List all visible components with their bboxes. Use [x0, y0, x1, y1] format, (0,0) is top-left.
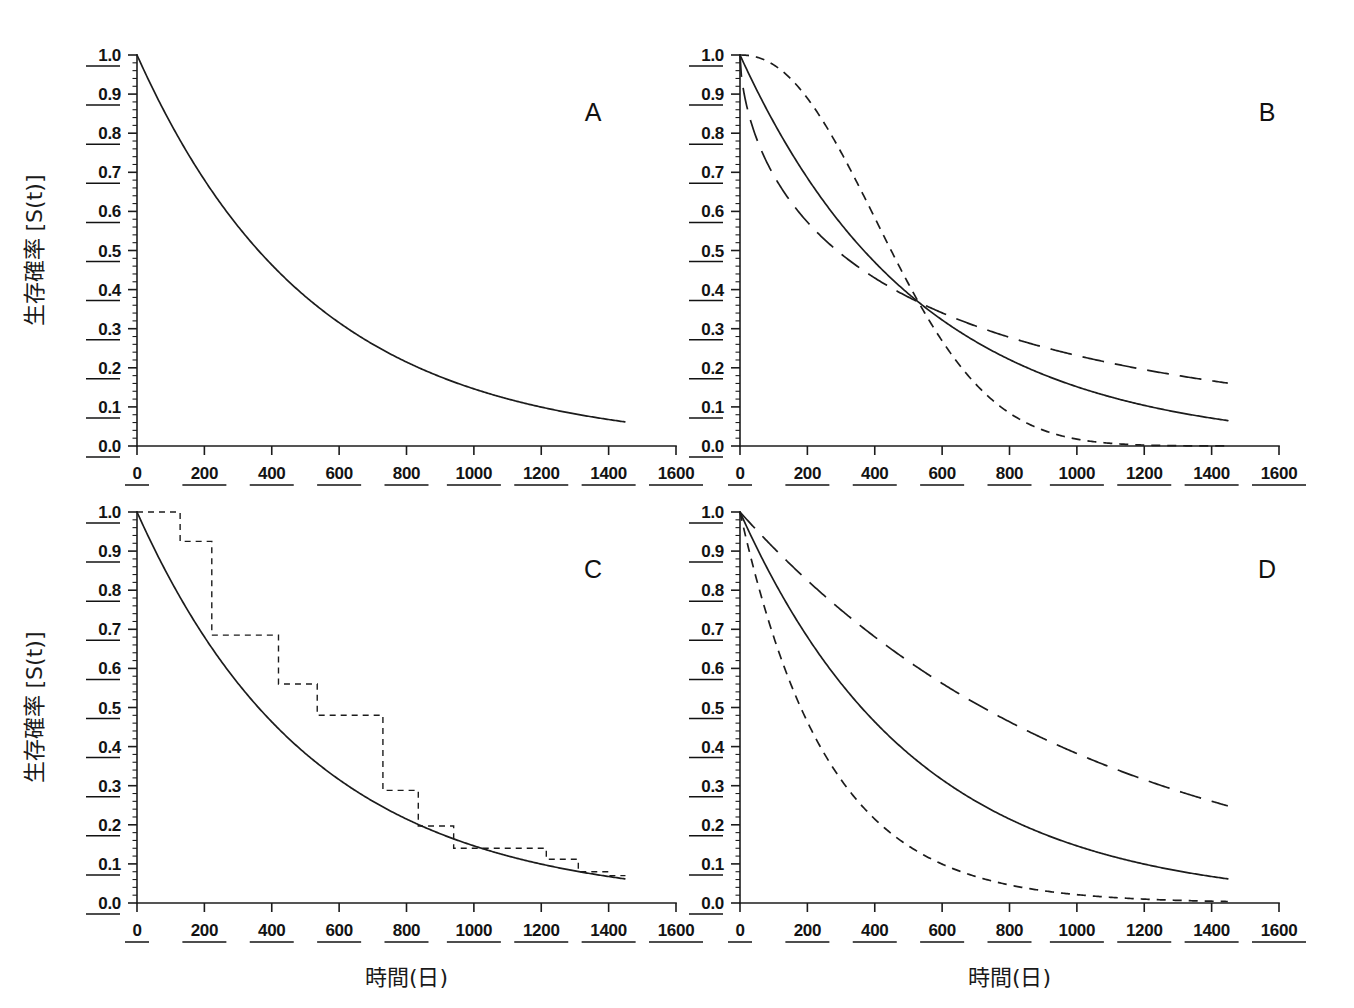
- curve-C-kaplan-meier-step: [137, 512, 625, 876]
- x-tick-label-C-6: 1200: [523, 921, 560, 940]
- y-tick-label-C-6: 0.6: [98, 659, 121, 678]
- x-tick-label-B-7: 1400: [1193, 464, 1230, 483]
- curve-A-exponential: [137, 55, 625, 422]
- x-tick-label-C-5: 1000: [456, 921, 493, 940]
- y-tick-label-D-8: 0.8: [701, 581, 724, 600]
- x-tick-label-B-6: 1200: [1126, 464, 1163, 483]
- x-tick-label-D-1: 200: [794, 921, 821, 940]
- y-tick-label-B-9: 0.9: [701, 85, 724, 104]
- y-tick-label-D-9: 0.9: [701, 542, 724, 561]
- y-tick-label-A-7: 0.7: [98, 163, 121, 182]
- y-axis-title-A: 生存確率 [S(t)]: [22, 175, 47, 327]
- y-tick-label-A-6: 0.6: [98, 202, 121, 221]
- x-tick-label-D-7: 1400: [1193, 921, 1230, 940]
- x-tick-label-B-3: 600: [928, 464, 955, 483]
- y-tick-label-A-8: 0.8: [98, 124, 121, 143]
- x-tick-label-B-8: 1600: [1261, 464, 1298, 483]
- x-tick-label-A-7: 1400: [590, 464, 627, 483]
- x-tick-label-A-1: 200: [191, 464, 218, 483]
- y-tick-label-A-4: 0.4: [98, 281, 122, 300]
- y-tick-label-A-2: 0.2: [98, 359, 121, 378]
- x-tick-label-D-8: 1600: [1261, 921, 1298, 940]
- x-tick-label-A-2: 400: [258, 464, 285, 483]
- y-tick-label-B-8: 0.8: [701, 124, 724, 143]
- y-tick-label-B-5: 0.5: [701, 242, 724, 261]
- y-tick-label-A-9: 0.9: [98, 85, 121, 104]
- y-tick-label-D-10: 1.0: [701, 503, 724, 522]
- panel-B: 0.00.10.20.30.40.50.60.70.80.91.00200400…: [689, 46, 1306, 485]
- x-tick-label-C-1: 200: [191, 921, 218, 940]
- y-tick-label-C-9: 0.9: [98, 542, 121, 561]
- x-tick-label-A-5: 1000: [456, 464, 493, 483]
- curve-D-exponential-hr-1.0: [740, 512, 1228, 879]
- y-tick-label-A-3: 0.3: [98, 320, 121, 339]
- y-tick-label-B-10: 1.0: [701, 46, 724, 65]
- x-tick-label-C-3: 600: [325, 921, 352, 940]
- y-tick-label-D-7: 0.7: [701, 620, 724, 639]
- y-tick-label-C-5: 0.5: [98, 699, 121, 718]
- x-tick-label-D-5: 1000: [1059, 921, 1096, 940]
- curve-B-weibull-shape-0.6: [740, 55, 1228, 383]
- y-tick-label-D-5: 0.5: [701, 699, 724, 718]
- y-tick-label-C-0: 0.0: [98, 894, 121, 913]
- y-tick-label-B-2: 0.2: [701, 359, 724, 378]
- y-tick-label-C-8: 0.8: [98, 581, 121, 600]
- y-tick-label-D-4: 0.4: [701, 738, 725, 757]
- figure-canvas: 0.00.10.20.30.40.50.60.70.80.91.00200400…: [0, 0, 1354, 1008]
- y-tick-label-D-2: 0.2: [701, 816, 724, 835]
- curve-D-exponential-hr-2.0: [740, 512, 1228, 902]
- y-tick-label-B-4: 0.4: [701, 281, 725, 300]
- panel-D: 0.00.10.20.30.40.50.60.70.80.91.00200400…: [689, 503, 1306, 942]
- x-tick-label-C-2: 400: [258, 921, 285, 940]
- curve-B-weibull-shape-1.0: [740, 55, 1228, 421]
- x-tick-label-B-2: 400: [861, 464, 888, 483]
- y-tick-label-C-1: 0.1: [98, 855, 121, 874]
- x-tick-label-A-4: 800: [393, 464, 420, 483]
- x-tick-label-C-0: 0: [132, 921, 141, 940]
- y-tick-label-C-4: 0.4: [98, 738, 122, 757]
- y-tick-label-C-3: 0.3: [98, 777, 121, 796]
- curve-D-exponential-hr-0.5: [740, 512, 1228, 806]
- x-tick-label-D-3: 600: [928, 921, 955, 940]
- x-tick-label-D-6: 1200: [1126, 921, 1163, 940]
- panel-letter-A: A: [585, 98, 602, 126]
- x-tick-label-B-1: 200: [794, 464, 821, 483]
- y-tick-label-B-1: 0.1: [701, 398, 724, 417]
- x-tick-label-D-2: 400: [861, 921, 888, 940]
- x-tick-label-D-4: 800: [996, 921, 1023, 940]
- y-tick-label-C-7: 0.7: [98, 620, 121, 639]
- panel-letter-D: D: [1258, 555, 1276, 583]
- y-tick-label-D-3: 0.3: [701, 777, 724, 796]
- x-tick-label-B-4: 800: [996, 464, 1023, 483]
- survival-curves-figure: 0.00.10.20.30.40.50.60.70.80.91.00200400…: [0, 0, 1354, 1008]
- y-tick-label-A-10: 1.0: [98, 46, 121, 65]
- y-tick-label-D-1: 0.1: [701, 855, 724, 874]
- y-axis-title-C: 生存確率 [S(t)]: [22, 632, 47, 784]
- y-tick-label-C-10: 1.0: [98, 503, 121, 522]
- y-tick-label-D-0: 0.0: [701, 894, 724, 913]
- x-tick-label-A-6: 1200: [523, 464, 560, 483]
- y-tick-label-B-6: 0.6: [701, 202, 724, 221]
- y-tick-label-A-0: 0.0: [98, 437, 121, 456]
- panel-letter-C: C: [584, 555, 602, 583]
- y-tick-label-A-5: 0.5: [98, 242, 121, 261]
- x-tick-label-A-0: 0: [132, 464, 141, 483]
- y-tick-label-B-7: 0.7: [701, 163, 724, 182]
- x-axis-title-C: 時間(日): [365, 965, 448, 990]
- y-tick-label-C-2: 0.2: [98, 816, 121, 835]
- x-tick-label-A-3: 600: [325, 464, 352, 483]
- panel-A: 0.00.10.20.30.40.50.60.70.80.91.00200400…: [86, 46, 703, 485]
- x-tick-label-B-5: 1000: [1059, 464, 1096, 483]
- x-axis-title-D: 時間(日): [968, 965, 1051, 990]
- y-tick-label-D-6: 0.6: [701, 659, 724, 678]
- curve-B-weibull-shape-2.2: [740, 55, 1228, 446]
- x-tick-label-C-7: 1400: [590, 921, 627, 940]
- x-tick-label-D-0: 0: [735, 921, 744, 940]
- x-tick-label-C-4: 800: [393, 921, 420, 940]
- panel-C: 0.00.10.20.30.40.50.60.70.80.91.00200400…: [86, 503, 703, 942]
- curve-C-fitted-exponential: [137, 512, 625, 879]
- x-tick-label-A-8: 1600: [658, 464, 695, 483]
- y-tick-label-A-1: 0.1: [98, 398, 121, 417]
- x-tick-label-B-0: 0: [735, 464, 744, 483]
- x-tick-label-C-8: 1600: [658, 921, 695, 940]
